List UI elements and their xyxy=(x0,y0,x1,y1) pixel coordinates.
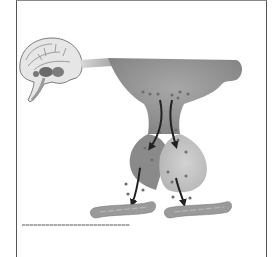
figure-caption-text xyxy=(22,222,132,226)
cerebellum xyxy=(52,67,64,77)
hypothalamus-pituitary-diagram xyxy=(0,0,272,257)
thalamus xyxy=(39,67,53,77)
pituitary-posterior xyxy=(159,134,207,192)
connector-band xyxy=(80,58,112,68)
blood-vessel-left xyxy=(90,202,155,218)
blood-vessel-right xyxy=(164,202,231,218)
brain-illustration xyxy=(20,38,82,102)
hypothalamus xyxy=(108,58,242,134)
